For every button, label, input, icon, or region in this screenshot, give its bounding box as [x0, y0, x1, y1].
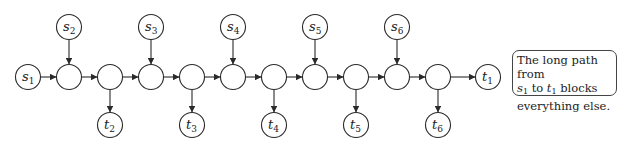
chain-node [98, 65, 123, 90]
chain-node [385, 65, 410, 90]
nodes: s1s2s3s4s5s6t1t2t3t4t5t6 [16, 15, 501, 138]
chain-node [426, 65, 451, 90]
chain-node [180, 65, 205, 90]
annotation-box: The long path from s1 to t1 blocks every… [512, 50, 617, 96]
chain-node [139, 65, 164, 90]
chain-node [262, 65, 287, 90]
chain-node [57, 65, 82, 90]
chain-node [344, 65, 369, 90]
chain-node [221, 65, 246, 90]
annotation-line-3: everything else. [517, 99, 612, 113]
chain-node [303, 65, 328, 90]
annotation-line-2: s1 to t1 blocks [517, 81, 612, 99]
annotation-line-1: The long path from [517, 53, 612, 81]
